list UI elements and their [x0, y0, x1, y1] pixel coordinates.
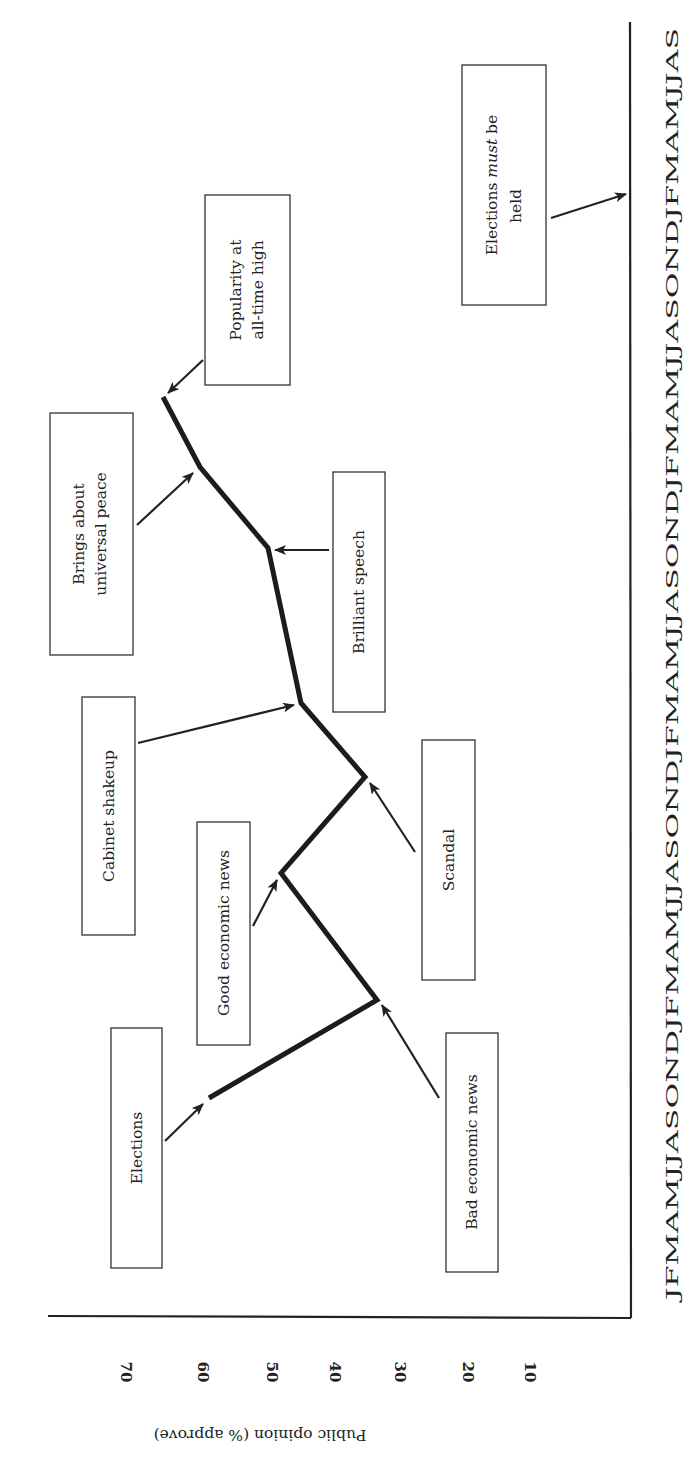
tick-10: 10: [521, 1362, 539, 1383]
annotation-must-line2: held: [507, 189, 525, 223]
tick-50: 50: [263, 1362, 281, 1383]
annotation-scandal: Scandal: [370, 740, 475, 980]
annotation-cabinet-text: Cabinet shakeup: [100, 750, 118, 882]
value-tick-labels: 70 60 50 40 30 20 10: [117, 1362, 539, 1383]
annotation-peace-line1: Brings about: [70, 483, 88, 585]
annotation-good-economic-news: Good economic news: [197, 822, 277, 1045]
annotation-elections-text: Elections: [128, 1112, 146, 1185]
annotation-elections-must-be-held: Elections must be held: [462, 65, 626, 305]
annotation-good-econ-text: Good economic news: [215, 850, 233, 1016]
annotation-speech-text: Brilliant speech: [350, 530, 368, 654]
tick-70: 70: [117, 1362, 135, 1383]
value-axis-title: Public opinion (% approve): [154, 1426, 367, 1444]
tick-30: 30: [391, 1362, 409, 1383]
approval-chart-figure: 70 60 50 40 30 20 10 Public opinion (% a…: [0, 0, 690, 1473]
annotation-elections: Elections: [111, 1028, 203, 1268]
annotation-scandal-text: Scandal: [440, 829, 458, 892]
annotation-popularity-high: Popularity at all-time high: [168, 195, 290, 393]
value-axis-line: [48, 1316, 631, 1318]
annotation-must-line1: Elections must be: [483, 115, 501, 255]
tick-40: 40: [326, 1362, 344, 1383]
annotation-cabinet-shakeup: Cabinet shakeup: [82, 697, 294, 935]
annotation-brilliant-speech: Brilliant speech: [275, 472, 385, 712]
time-axis-line: [630, 22, 631, 1318]
tick-20: 20: [459, 1362, 477, 1383]
annotation-universal-peace: Brings about universal peace: [50, 413, 193, 655]
tick-60: 60: [194, 1362, 212, 1383]
annotation-popularity-line2: all-time high: [249, 240, 267, 339]
annotation-bad-economic-news: Bad economic news: [382, 1005, 498, 1272]
annotation-peace-line2: universal peace: [92, 472, 110, 596]
annotation-bad-econ-text: Bad economic news: [463, 1074, 481, 1230]
month-tick-labels: JFMAMJJASONDJFMAMJJASONDJFMAMJJASONDJFMA…: [663, 28, 682, 1304]
annotation-popularity-line1: Popularity at: [227, 239, 245, 341]
